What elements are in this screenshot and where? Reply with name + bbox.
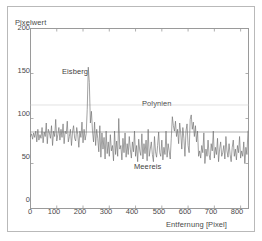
chart-plot bbox=[0, 0, 262, 241]
data-series-line bbox=[31, 67, 248, 163]
plot-frame bbox=[31, 29, 249, 209]
plot-area-wrapper: Pixelwert Entfernung [Pixel] 200 150 100… bbox=[0, 0, 262, 241]
axes-group bbox=[31, 29, 249, 209]
axis-tick-marks bbox=[31, 29, 249, 209]
figure-canvas: Pixelwert Entfernung [Pixel] 200 150 100… bbox=[0, 0, 262, 241]
